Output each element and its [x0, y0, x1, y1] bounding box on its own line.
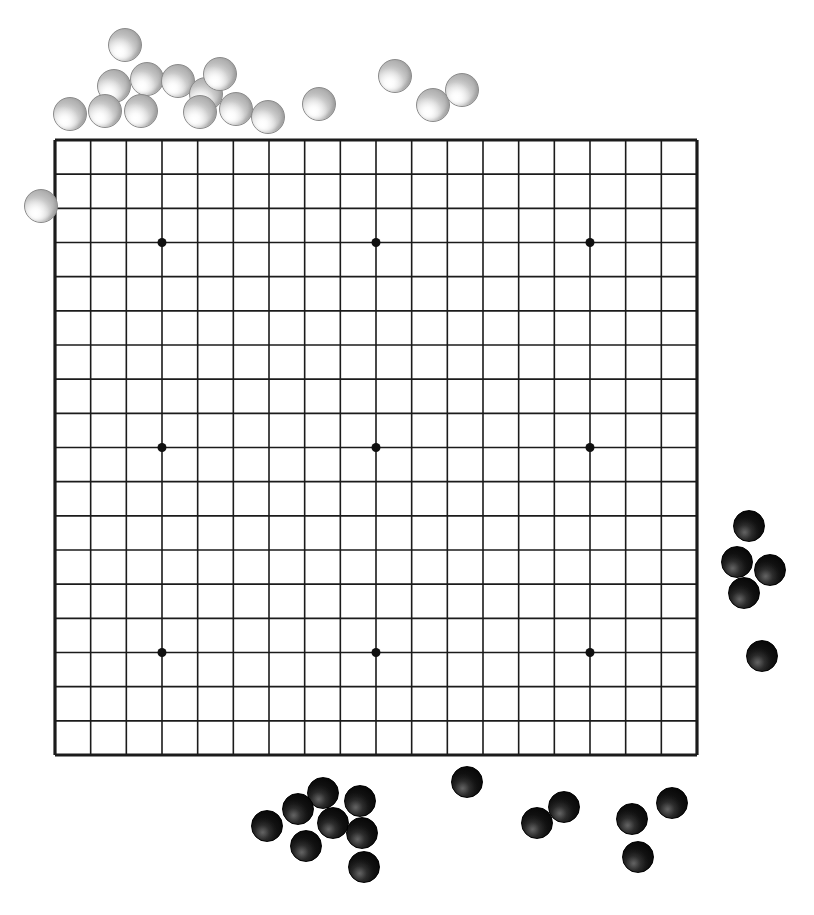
white-stone[interactable] — [24, 189, 58, 223]
black-stone[interactable] — [317, 807, 349, 839]
black-stone[interactable] — [721, 546, 753, 578]
white-stone[interactable] — [183, 95, 217, 129]
black-stone[interactable] — [622, 841, 654, 873]
star-point — [158, 443, 167, 452]
black-stone[interactable] — [746, 640, 778, 672]
star-point — [372, 238, 381, 247]
black-stone[interactable] — [548, 791, 580, 823]
white-stone[interactable] — [445, 73, 479, 107]
white-stone[interactable] — [219, 92, 253, 126]
white-stone[interactable] — [251, 100, 285, 134]
black-stone[interactable] — [290, 830, 322, 862]
white-stone[interactable] — [108, 28, 142, 62]
go-board-scene — [0, 0, 814, 915]
black-stone[interactable] — [344, 785, 376, 817]
black-stone[interactable] — [251, 810, 283, 842]
black-stone[interactable] — [728, 577, 760, 609]
black-stone[interactable] — [282, 793, 314, 825]
white-stone[interactable] — [53, 97, 87, 131]
black-stone[interactable] — [348, 851, 380, 883]
black-stone[interactable] — [616, 803, 648, 835]
star-point — [586, 443, 595, 452]
star-point — [372, 648, 381, 657]
star-point — [372, 443, 381, 452]
white-stone[interactable] — [203, 57, 237, 91]
star-point — [158, 648, 167, 657]
white-stone[interactable] — [378, 59, 412, 93]
white-stone[interactable] — [88, 94, 122, 128]
white-stone[interactable] — [124, 94, 158, 128]
black-stone[interactable] — [656, 787, 688, 819]
white-stone[interactable] — [302, 87, 336, 121]
white-stone[interactable] — [130, 62, 164, 96]
star-point — [586, 648, 595, 657]
black-stone[interactable] — [754, 554, 786, 586]
go-board-grid[interactable] — [0, 0, 814, 915]
black-stone[interactable] — [346, 817, 378, 849]
black-stone[interactable] — [733, 510, 765, 542]
black-stone[interactable] — [451, 766, 483, 798]
star-point — [158, 238, 167, 247]
star-point — [586, 238, 595, 247]
